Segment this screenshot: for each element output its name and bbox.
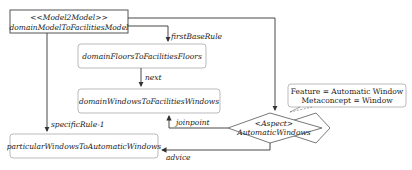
label-advice: advice (166, 153, 191, 162)
label-first-base-rule: firstBaseRule (170, 32, 223, 41)
windows-name: domainWindowsToFacilitiesWindows (79, 97, 219, 106)
label-next: next (145, 73, 162, 82)
note-connector (290, 107, 312, 112)
floors-node[interactable]: domainFloorsToFacilitiesFloors (78, 44, 206, 68)
model2model-name: domainModelToFacilitiesModel (10, 23, 130, 32)
note-feature: Feature = Automatic Window (291, 87, 404, 96)
aspect-node[interactable]: <Aspect> AutomaticWindows (228, 113, 330, 143)
floors-name: domainFloorsToFacilitiesFloors (82, 52, 202, 61)
label-joinpoint: joinpoint (174, 118, 211, 127)
edge-advice: advice (162, 143, 270, 162)
diagram-canvas: <<Model2Model>> domainModelToFacilitiesM… (0, 0, 412, 170)
aspect-name: AutomaticWindows (236, 128, 311, 137)
note-connector-2 (290, 107, 300, 112)
aspect-stereotype: <Aspect> (255, 119, 293, 128)
edge-first-base-rule: firstBaseRule (128, 26, 223, 41)
edge-next: next (141, 68, 162, 86)
windows-node[interactable]: domainWindowsToFacilitiesWindows (78, 89, 220, 113)
label-specific-rule: specificRule-1 (51, 120, 105, 129)
particular-name: particularWindowsToAutomaticWindows (7, 142, 162, 151)
model2model-node[interactable]: <<Model2Model>> domainModelToFacilitiesM… (10, 10, 130, 33)
particular-node[interactable]: particularWindowsToAutomaticWindows (7, 134, 162, 158)
edge-joinpoint: joinpoint (169, 116, 228, 128)
note-metaconcept: Metaconcept = Window (301, 96, 393, 105)
model2model-stereotype: <<Model2Model>> (30, 13, 108, 22)
feature-note: Feature = Automatic Window Metaconcept =… (288, 84, 406, 107)
